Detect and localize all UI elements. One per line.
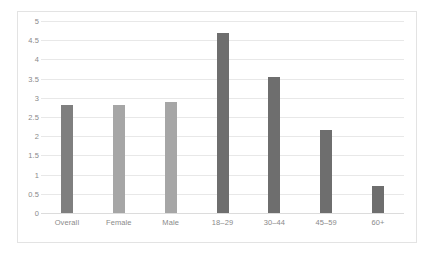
y-axis-tick-label: 2 bbox=[35, 132, 39, 141]
x-axis-tick-label: Female bbox=[106, 218, 132, 227]
bar-chart: 00.511.522.533.544.55 OverallFemaleMale1… bbox=[0, 0, 436, 264]
y-axis-tick-label: 4 bbox=[35, 55, 39, 64]
bar bbox=[217, 33, 229, 213]
y-axis-tick-label: 4.5 bbox=[28, 36, 39, 45]
x-axis-tick-label: 18–29 bbox=[212, 218, 233, 227]
bar bbox=[372, 186, 384, 213]
bar bbox=[268, 77, 280, 213]
y-axis-tick-label: 3.5 bbox=[28, 74, 39, 83]
x-axis-tick-label: 30–44 bbox=[264, 218, 285, 227]
y-axis-tick-labels: 00.511.522.533.544.55 bbox=[17, 21, 39, 213]
y-axis-tick-label: 5 bbox=[35, 17, 39, 26]
gridline bbox=[41, 213, 404, 214]
x-axis-tick-label: Overall bbox=[55, 218, 79, 227]
y-axis-tick-label: 1.5 bbox=[28, 151, 39, 160]
bar bbox=[165, 102, 177, 213]
y-axis-tick-label: 3 bbox=[35, 93, 39, 102]
x-axis-tick-label: Male bbox=[162, 218, 179, 227]
y-axis-tick-label: 1 bbox=[35, 170, 39, 179]
y-axis-tick-label: 0 bbox=[35, 209, 39, 218]
x-axis-tick-label: 45–59 bbox=[316, 218, 337, 227]
y-axis-tick-label: 0.5 bbox=[28, 189, 39, 198]
bar bbox=[61, 105, 73, 213]
bar bbox=[113, 105, 125, 213]
bar bbox=[320, 130, 332, 213]
x-axis-tick-label: 60+ bbox=[372, 218, 385, 227]
chart-bars bbox=[41, 21, 404, 213]
x-axis-tick-labels: OverallFemaleMale18–2930–4445–5960+ bbox=[41, 216, 404, 238]
y-axis-tick-label: 2.5 bbox=[28, 113, 39, 122]
